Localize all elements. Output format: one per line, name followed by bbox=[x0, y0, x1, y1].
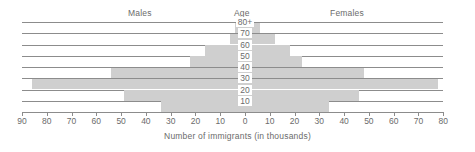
x-axis-line bbox=[22, 112, 443, 113]
age-tick-label: 60 bbox=[225, 40, 265, 51]
age-tick-label: 20 bbox=[225, 85, 265, 96]
males-header-label: Males bbox=[128, 8, 152, 18]
age-tick-label: 80+ bbox=[225, 17, 265, 28]
age-tick-label: 40 bbox=[225, 62, 265, 73]
bar-females bbox=[245, 79, 438, 90]
x-axis-title: Number of immigrants (in thousands) bbox=[0, 131, 475, 141]
plot-area: 80+70605040302010 bbox=[22, 22, 443, 112]
females-header-label: Females bbox=[330, 8, 364, 18]
age-tick-label: 70 bbox=[225, 28, 265, 39]
population-pyramid-chart: Males Age Females 80+70605040302010 Numb… bbox=[0, 0, 475, 152]
bar-males bbox=[32, 79, 245, 90]
age-tick-label: 50 bbox=[225, 51, 265, 62]
x-axis-tick-label: 80 bbox=[428, 116, 458, 127]
age-tick-label: 30 bbox=[225, 73, 265, 84]
age-tick-label: 10 bbox=[225, 96, 265, 107]
